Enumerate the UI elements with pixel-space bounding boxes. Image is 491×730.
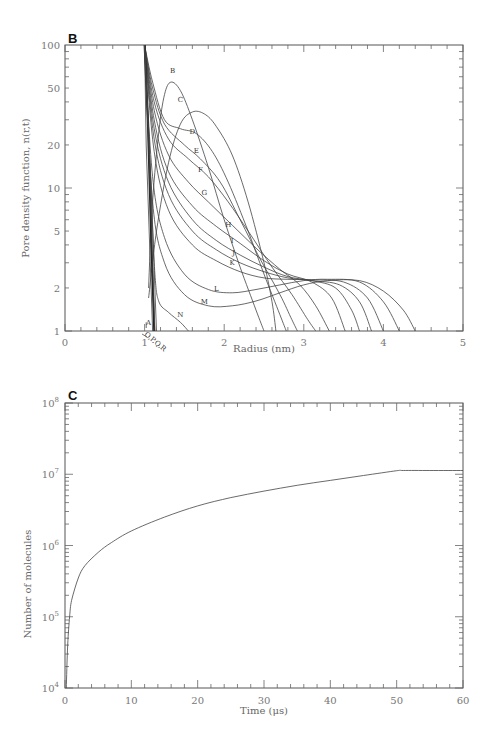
curve-label-e: E: [194, 147, 199, 155]
y-tick-label: 5: [54, 226, 60, 237]
y-tick-label: 100: [41, 40, 60, 51]
panel-c-x-axis-label: Time (μs): [240, 705, 288, 716]
panel-b-y-axis-label: Pore density function, n(r,t): [20, 118, 31, 258]
x-tick-label: 20: [191, 695, 204, 706]
x-tick-label: 4: [380, 337, 386, 348]
molecules-curve: [66, 470, 463, 688]
panel-c-chart: C 0102030405060104105106107108 Time (μs)…: [22, 388, 469, 716]
curve-label-i: I: [231, 237, 234, 245]
curve-label-j: J: [231, 249, 235, 257]
x-tick-label: 10: [125, 695, 138, 706]
panel-b-chart: B 012345125102050100 ABCDEFGHIJKLMN Radi…: [20, 31, 466, 354]
y-tick-label: 108: [42, 396, 59, 409]
x-tick-label: 60: [457, 695, 470, 706]
curve-b: [149, 82, 264, 331]
x-tick-label: 0: [62, 695, 68, 706]
curve-label-d: D: [190, 128, 196, 136]
x-tick-label: 0: [62, 337, 68, 348]
curve-c: [149, 111, 276, 331]
y-tick-label: 10: [47, 183, 60, 194]
curve-l: [145, 45, 400, 331]
panel-c-ticks: 0102030405060104105106107108: [42, 396, 470, 706]
panel-c-curves: [66, 470, 463, 688]
y-tick-label: 104: [42, 681, 60, 694]
curve-i: [145, 45, 360, 331]
panel-b-curves: ABCDEFGHIJKLMN: [145, 45, 416, 331]
curve-label-c: C: [178, 96, 183, 104]
curve-f: [145, 45, 316, 331]
panel-c-label: C: [68, 388, 78, 403]
figure: B 012345125102050100 ABCDEFGHIJKLMN Radi…: [0, 0, 491, 730]
y-tick-label: 50: [47, 83, 60, 94]
panel-b-x-axis-label: Radius (nm): [233, 343, 295, 354]
x-tick-label: 40: [324, 695, 337, 706]
x-tick-label: 3: [301, 337, 307, 348]
y-tick-label: 105: [42, 610, 59, 623]
x-tick-label: 2: [221, 337, 227, 348]
curve-e: [145, 45, 298, 331]
curve-label-k: K: [230, 259, 236, 267]
curve-label-g: G: [202, 189, 208, 197]
panel-c-plot-frame: [65, 403, 463, 688]
curve-label-m: M: [201, 298, 208, 306]
curve-label-a: A: [145, 319, 152, 327]
curve-h: [145, 45, 346, 331]
curve-label-f: F: [198, 166, 203, 174]
y-tick-label: 106: [42, 539, 60, 552]
curve-label-l: L: [214, 285, 219, 293]
y-tick-label: 2: [54, 283, 60, 294]
x-tick-label: 50: [390, 695, 403, 706]
curve-g: [145, 45, 330, 331]
y-tick-label: 1: [54, 326, 60, 337]
curve-label-n: N: [177, 311, 183, 319]
panel-b-label: B: [68, 31, 77, 46]
x-tick-label: 5: [460, 337, 466, 348]
panel-c-y-axis-label: Number of molecules: [22, 530, 33, 639]
y-tick-label: 20: [47, 140, 60, 151]
curve-label-h: H: [225, 221, 231, 229]
curve-m: [145, 45, 416, 331]
y-tick-label: 107: [42, 467, 59, 480]
curve-label-b: B: [170, 67, 175, 75]
